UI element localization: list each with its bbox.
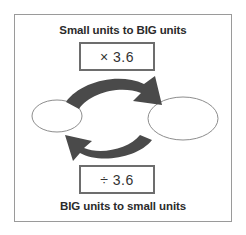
caption-big-to-small: BIG units to small units: [0, 200, 246, 212]
arrow-divide-bottom: [65, 135, 152, 161]
unit-conversion-diagram: Small units to BIG units × 3.6 ÷ 3.6 BIG…: [0, 0, 246, 235]
arrow-multiply-top: [66, 76, 162, 109]
divide-operation-box: ÷ 3.6: [79, 165, 155, 194]
divide-operation-label: ÷ 3.6: [100, 173, 134, 187]
